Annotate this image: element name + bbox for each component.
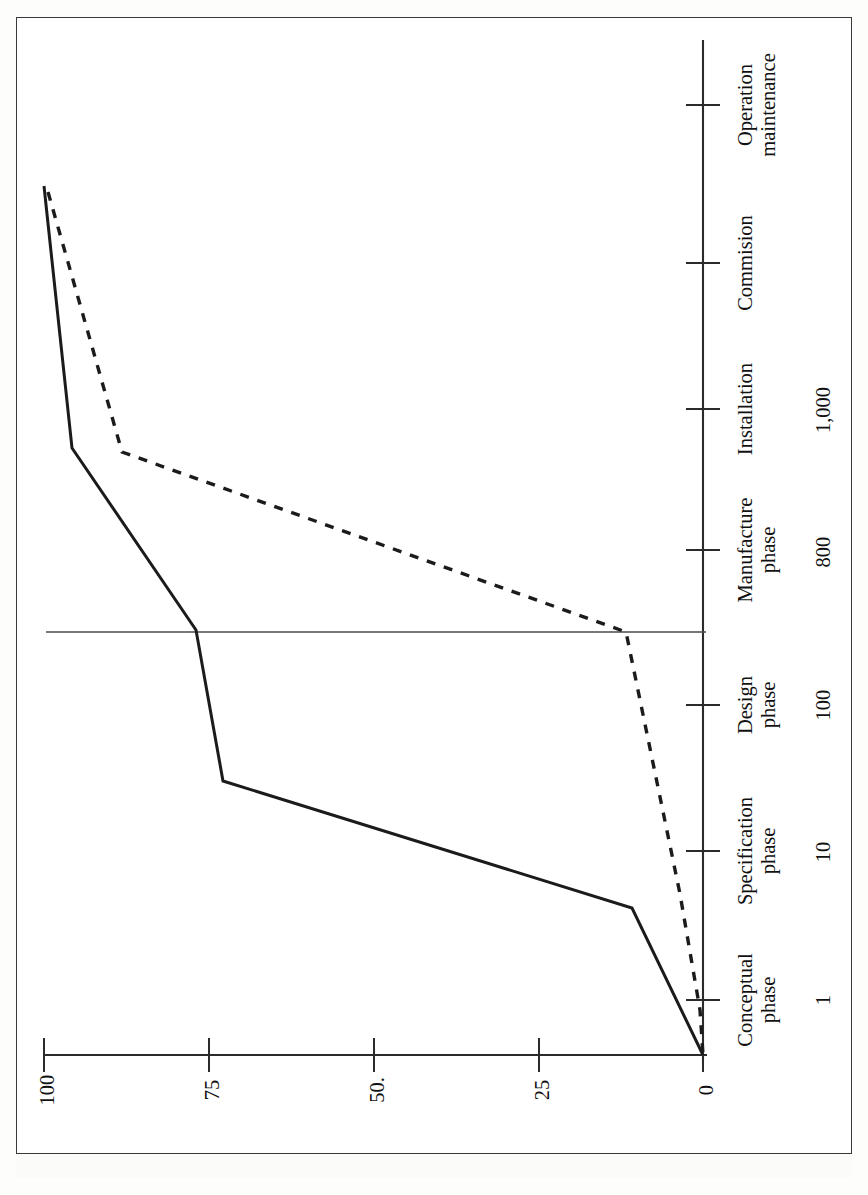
value-tick-label-50: 50. <box>366 1030 389 1150</box>
scale-number-800: 800 <box>812 492 835 612</box>
scale-number-100: 100 <box>812 645 835 765</box>
rotated-line-chart: 100 75 50. 25 0 Conceptual phase Specifi… <box>0 0 868 1195</box>
category-label-operation-maintenance: Operation maintenance <box>734 5 780 205</box>
chart-page: 100 75 50. 25 0 Conceptual phase Specifi… <box>0 0 868 1195</box>
value-tick-label-0: 0 <box>695 1030 718 1150</box>
scale-number-1000: 1,000 <box>812 350 835 470</box>
value-tick-label-100: 100 <box>36 1030 59 1150</box>
scale-number-1: 1 <box>812 940 835 1060</box>
category-label-line2: phase <box>757 450 780 650</box>
value-tick-label-25: 25 <box>531 1030 554 1150</box>
series-solid-line <box>44 186 703 1055</box>
category-label-line2: maintenance <box>757 5 780 205</box>
series-dashed-line <box>48 192 703 1055</box>
value-tick-label-75: 75 <box>201 1030 224 1150</box>
category-label-line1: Operation <box>734 5 757 205</box>
scale-number-10: 10 <box>812 792 835 912</box>
